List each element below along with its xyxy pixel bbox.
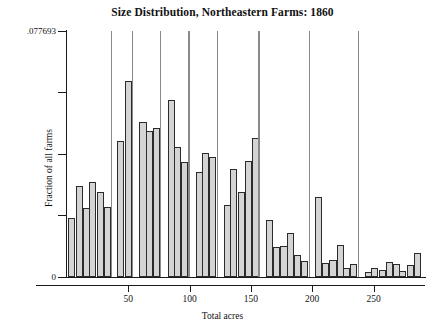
x-tick-label-1: 100 xyxy=(182,294,196,304)
x-tick-4 xyxy=(374,286,375,292)
y-tick-label-4: 0 xyxy=(0,272,56,282)
y-tick-3 xyxy=(58,215,66,216)
histogram-bar xyxy=(309,31,310,277)
y-tick-4 xyxy=(58,277,66,278)
x-tick-label-3: 200 xyxy=(305,294,319,304)
histogram-bar xyxy=(209,157,216,277)
histogram-bar xyxy=(343,268,350,277)
histogram-bar xyxy=(315,197,322,277)
x-tick-label-4: 250 xyxy=(366,294,380,304)
histogram-bar xyxy=(181,162,188,277)
y-tick-0 xyxy=(58,31,66,32)
histogram-bar xyxy=(146,131,153,277)
histogram-bar xyxy=(322,263,329,277)
x-axis-label: Total acres xyxy=(0,311,445,321)
x-tick-label-2: 150 xyxy=(244,294,258,304)
histogram-bar xyxy=(174,147,181,277)
histogram-bar xyxy=(371,268,378,277)
histogram-bar xyxy=(230,169,237,277)
histogram-bar xyxy=(301,261,308,277)
bars-layer xyxy=(67,31,425,277)
histogram-bar xyxy=(68,218,75,277)
y-axis-label: Fraction of all farms xyxy=(44,129,54,207)
histogram-bar xyxy=(117,141,124,277)
histogram-bar xyxy=(125,81,132,277)
histogram-bar xyxy=(188,31,189,277)
histogram-bar xyxy=(399,271,406,277)
histogram-bar xyxy=(273,247,280,277)
histogram-bar xyxy=(294,255,301,277)
histogram-bar xyxy=(132,31,133,277)
histogram-bar xyxy=(266,220,273,277)
chart-title: Size Distribution, Northeastern Farms: 1… xyxy=(0,6,445,18)
histogram-bar xyxy=(153,128,160,277)
x-tick-3 xyxy=(312,286,313,292)
histogram-bar xyxy=(238,192,245,277)
histogram-bar xyxy=(350,264,357,277)
x-axis-line xyxy=(36,285,425,286)
x-tick-1 xyxy=(190,286,191,292)
histogram-chart: Size Distribution, Northeastern Farms: 1… xyxy=(0,0,445,336)
histogram-bar xyxy=(97,192,104,277)
histogram-bar xyxy=(407,265,414,277)
x-tick-2 xyxy=(251,286,252,292)
histogram-bar xyxy=(287,233,294,277)
histogram-bar xyxy=(202,153,209,277)
histogram-bar xyxy=(414,253,421,277)
histogram-bar xyxy=(258,31,259,277)
histogram-bar xyxy=(111,31,112,277)
x-tick-0 xyxy=(128,286,129,292)
y-tick-1 xyxy=(58,92,66,93)
histogram-bar xyxy=(217,31,218,277)
y-tick-label-0: .077693 xyxy=(0,26,56,36)
plot-area xyxy=(67,31,425,277)
histogram-bar xyxy=(160,31,161,277)
histogram-bar xyxy=(386,262,393,277)
plot-baseline xyxy=(66,277,426,278)
x-tick-label-0: 50 xyxy=(124,294,134,304)
histogram-bar xyxy=(245,161,252,277)
histogram-bar xyxy=(76,186,83,277)
y-tick-2 xyxy=(58,154,66,155)
histogram-bar xyxy=(329,260,336,277)
histogram-bar xyxy=(379,270,386,277)
histogram-bar xyxy=(358,31,359,277)
histogram-bar xyxy=(89,182,96,277)
histogram-bar xyxy=(104,207,111,277)
